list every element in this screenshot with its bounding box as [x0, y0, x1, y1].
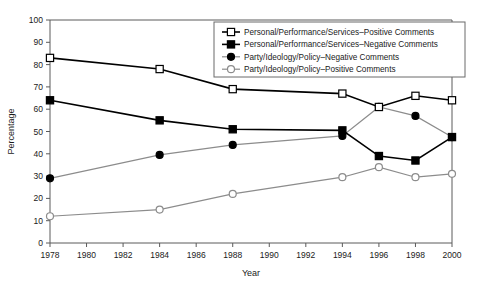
y-tick-label: 80	[34, 60, 44, 70]
legend: Personal/Performance/Services–Positive C…	[214, 22, 465, 77]
x-tick-label: 2000	[443, 250, 462, 260]
series-1	[46, 97, 455, 164]
x-tick-label: 1986	[187, 250, 206, 260]
data-point	[229, 190, 236, 197]
data-point	[412, 157, 419, 164]
data-point	[412, 174, 419, 181]
data-point	[46, 54, 53, 61]
series-line	[50, 107, 452, 178]
y-tick-label: 20	[34, 193, 44, 203]
legend-label: Personal/Performance/Services–Negative C…	[244, 40, 438, 49]
legend-label: Party/Ideology/Policy–Positive Comments	[244, 65, 396, 74]
legend-marker	[228, 66, 235, 73]
x-tick-label: 1982	[114, 250, 133, 260]
chart-container: 0102030405060708090100197819801982198419…	[0, 0, 482, 289]
y-tick-label: 60	[34, 104, 44, 114]
data-point	[46, 97, 53, 104]
y-tick-label: 50	[34, 127, 44, 137]
y-tick-label: 100	[29, 15, 43, 25]
data-point	[375, 164, 382, 171]
data-point	[47, 213, 54, 220]
data-point	[156, 206, 163, 213]
data-point	[229, 86, 236, 93]
data-point	[412, 92, 419, 99]
data-point	[339, 90, 346, 97]
y-tick-label: 70	[34, 82, 44, 92]
x-tick-label: 1988	[223, 250, 242, 260]
series-3	[47, 164, 456, 220]
x-tick-label: 1980	[77, 250, 96, 260]
legend-label: Personal/Performance/Services–Positive C…	[244, 28, 434, 37]
series-line	[50, 167, 452, 216]
data-point	[156, 65, 163, 72]
x-tick-label: 1996	[369, 250, 388, 260]
series-2	[47, 103, 456, 181]
data-point	[448, 133, 455, 140]
data-point	[229, 126, 236, 133]
x-tick-label: 1992	[296, 250, 315, 260]
x-axis-title: Year	[242, 268, 260, 278]
y-tick-label: 90	[34, 37, 44, 47]
series-line	[50, 100, 452, 160]
line-chart: 0102030405060708090100197819801982198419…	[0, 0, 482, 289]
data-point	[375, 152, 382, 159]
data-point	[229, 141, 236, 148]
data-point	[339, 174, 346, 181]
data-point	[156, 117, 163, 124]
x-tick-label: 1990	[260, 250, 279, 260]
legend-marker	[227, 41, 234, 48]
legend-marker	[227, 28, 234, 35]
y-tick-label: 40	[34, 149, 44, 159]
data-point	[156, 151, 163, 158]
y-tick-label: 0	[38, 238, 43, 248]
data-point	[47, 175, 54, 182]
x-tick-label: 1984	[150, 250, 169, 260]
y-axis-title: Percentage	[6, 108, 16, 154]
x-tick-label: 1998	[406, 250, 425, 260]
x-tick-label: 1978	[41, 250, 60, 260]
data-point	[448, 97, 455, 104]
data-point	[412, 112, 419, 119]
y-tick-label: 30	[34, 171, 44, 181]
legend-marker	[228, 53, 235, 60]
data-point	[339, 127, 346, 134]
y-tick-label: 10	[34, 216, 44, 226]
x-tick-label: 1994	[333, 250, 352, 260]
legend-label: Party/Ideology/Policy–Negative Comments	[244, 53, 399, 62]
data-point	[449, 170, 456, 177]
data-point	[375, 103, 382, 110]
